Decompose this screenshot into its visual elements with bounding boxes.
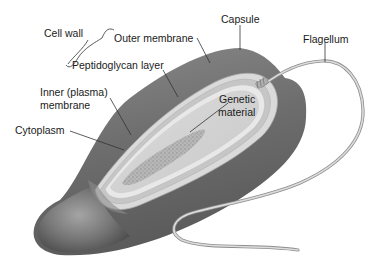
label-outer-membrane: Outer membrane: [114, 32, 194, 44]
label-peptidoglycan-layer: Peptidoglycan layer: [72, 59, 164, 71]
label-genetic-material-line1: Genetic: [219, 93, 255, 105]
label-genetic-material-line2: material: [218, 106, 255, 118]
bacterial-cell-diagram: Cell wall Outer membrane Capsule Flagell…: [0, 0, 379, 259]
label-cell-wall: Cell wall: [44, 27, 83, 39]
label-cytoplasm: Cytoplasm: [15, 124, 65, 136]
label-capsule: Capsule: [221, 13, 260, 25]
label-flagellum: Flagellum: [303, 33, 349, 45]
label-inner-membrane-line1: Inner (plasma): [40, 86, 108, 98]
label-inner-membrane-line2: membrane: [40, 99, 90, 111]
